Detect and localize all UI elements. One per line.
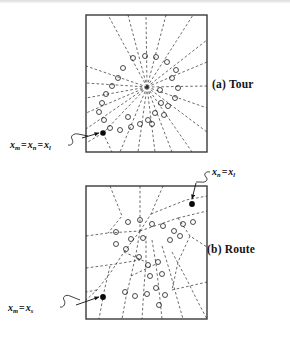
term-x-m: xm	[8, 302, 18, 313]
annotation-leader-tour	[68, 134, 88, 145]
panel-route	[60, 172, 210, 319]
term-x-s: xs	[26, 302, 34, 313]
term-x-l: xl	[44, 139, 51, 150]
panel-caption-tour: (a) Tour	[212, 78, 254, 90]
depot-node-route-lower	[100, 294, 106, 300]
equals-sign: =	[20, 139, 28, 150]
panel-tour	[68, 15, 207, 152]
annotation-leader-route-upper	[196, 172, 210, 182]
annotation-leader-route-lower	[60, 295, 80, 307]
annotation-label-tour: xm=xn=xl	[10, 139, 51, 150]
term-x-m: xm	[10, 139, 20, 150]
equals-sign: =	[18, 302, 26, 313]
annotation-label-route-lower: xm=xs	[8, 302, 33, 313]
annotation-label-route-upper: xn=xl	[212, 166, 235, 177]
depot-node-tour	[100, 130, 106, 136]
depot-node-route-upper	[189, 201, 195, 207]
term-x-l: xl	[228, 166, 235, 177]
panel-caption-route: (b) Route	[207, 243, 255, 255]
equals-sign: =	[36, 139, 44, 150]
term-x-n: xn	[212, 166, 221, 177]
figure-canvas	[0, 0, 290, 341]
